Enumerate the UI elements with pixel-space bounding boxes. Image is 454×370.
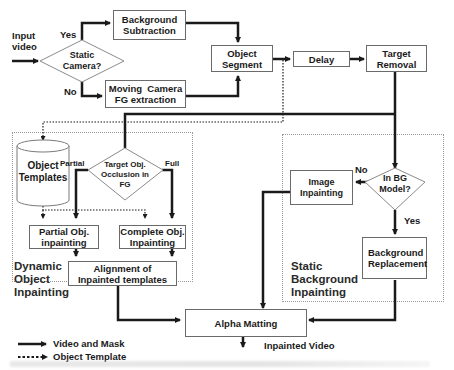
static-camera-yes-label: Yes (60, 29, 76, 40)
occlusion-partial-label: Partial (60, 158, 84, 169)
image-inpainting-node: Image Inpainting (290, 170, 353, 205)
legend-video-and-mask: Video and Mask (53, 338, 125, 349)
static-background-inpainting-title: Static Background Inpainting (291, 260, 358, 299)
figure-caption-cropped (10, 361, 430, 367)
partial-obj-inpainting-node: Partial Obj. inpainting (29, 225, 99, 249)
occlusion-full-label: Full (165, 158, 179, 169)
complete-obj-inpainting-node: Complete Obj. Inpainting (119, 225, 186, 249)
in-bg-model-no-label: No (355, 164, 368, 175)
delay-node: Delay (293, 51, 350, 67)
input-video-label: Input video (12, 30, 37, 52)
moving-camera-fg-extraction-node: Moving Camera FG extraction (105, 80, 186, 108)
alignment-of-inpainted-templates-node: Alignment of Inpainted templates (68, 261, 177, 286)
occlusion-decision-label: Target Obj. Occlusion in FG (95, 160, 155, 190)
in-bg-model-yes-label: Yes (404, 215, 420, 226)
dynamic-object-inpainting-title: Dynamic Object Inpainting (14, 260, 69, 299)
in-bg-model-decision-label: In BG Model? (372, 173, 418, 195)
object-segment-node: Object Segment (211, 45, 273, 72)
background-replacement-node: Background Replacement (362, 237, 427, 279)
alpha-matting-node: Alpha Matting (185, 309, 307, 337)
static-camera-decision-label: Static Camera? (52, 50, 112, 72)
inpainted-video-output-label: Inpainted Video (264, 340, 335, 351)
target-removal-node: Target Removal (366, 45, 427, 72)
background-subtraction-node: Background Subtraction (113, 10, 186, 40)
static-camera-no-label: No (64, 86, 77, 97)
